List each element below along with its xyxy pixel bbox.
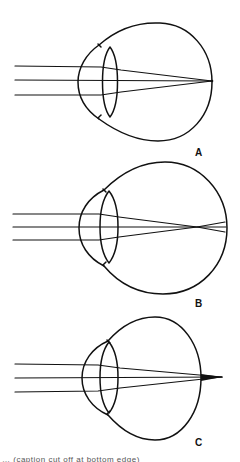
light-ray-c-middle [15,377,222,378]
limbus-notch-b-bottom [103,262,106,265]
eye-panel-a [15,23,213,141]
eye-panel-c [15,317,222,440]
panel-label-a: A [195,148,202,158]
eye-refraction-diagram [0,0,240,462]
eye-globe-c [108,317,201,440]
eye-globe-b [104,162,227,294]
light-ray-b-top [13,214,225,232]
focal-point-a [211,80,214,83]
lens-a [103,47,118,117]
cornea-a [78,45,99,119]
panel-label-b: B [195,299,202,309]
limbus-notch-a-bottom [98,115,101,118]
light-ray-a-bottom [15,81,212,95]
panel-label-c: C [195,438,202,448]
eye-panel-b [13,162,227,294]
light-ray-a-middle [15,80,212,81]
focal-wedge-c [201,374,222,381]
light-ray-a-top [15,66,212,81]
eye-globe-a [99,23,212,141]
figure-caption-truncated: … (caption cut off at bottom edge) [2,455,240,462]
light-ray-b-bottom [13,222,225,240]
